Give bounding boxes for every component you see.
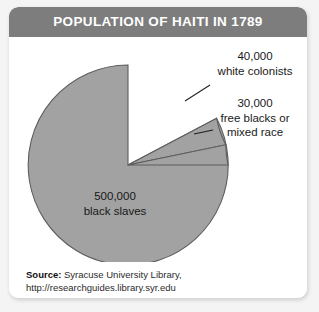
slice-label-black-slaves: 500,000 black slaves	[59, 189, 171, 219]
pie-chart-plot-area: 40,000 white colonists 30,000 free black…	[9, 37, 307, 262]
callout-white-colonists-value: 40,000	[205, 49, 305, 64]
callout-free-blacks: 30,000 free blacks or mixed race	[205, 96, 305, 140]
figure-card: POPULATION OF HAITI IN 1789 40,000 white…	[9, 7, 307, 298]
callout-free-blacks-description-line2: mixed race	[205, 125, 305, 140]
source-block: Source: Syracuse University Library, htt…	[26, 269, 296, 294]
source-url: http://researchguides.library.syr.edu	[26, 282, 296, 295]
source-organization: Syracuse University Library,	[61, 269, 181, 280]
source-label: Source:	[26, 269, 61, 280]
slice-label-black-slaves-description: black slaves	[59, 204, 171, 219]
page-title: POPULATION OF HAITI IN 1789	[9, 7, 307, 37]
chart-title-bar: POPULATION OF HAITI IN 1789	[9, 7, 307, 37]
slice-label-black-slaves-value: 500,000	[59, 189, 171, 204]
callout-free-blacks-description-line1: free blacks or	[205, 111, 305, 126]
callout-white-colonists-description: white colonists	[205, 64, 305, 79]
callout-white-colonists: 40,000 white colonists	[205, 49, 305, 78]
page-background: POPULATION OF HAITI IN 1789 40,000 white…	[0, 0, 319, 312]
callout-free-blacks-value: 30,000	[205, 96, 305, 111]
